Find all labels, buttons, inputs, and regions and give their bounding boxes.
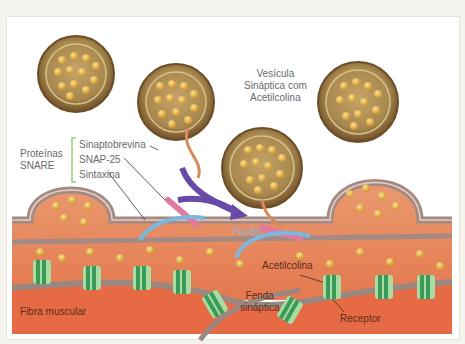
receptor-label: Receptor (340, 313, 381, 325)
vesicle-label-line-2: Sináptica com (244, 80, 307, 92)
vesicle-label-line-1: Vesícula (244, 68, 307, 80)
snare-item-synaptobrevin: Sinaptobrevina (79, 139, 146, 151)
synaptic-cleft-line-2: sináptica (240, 302, 279, 314)
muscle-fiber-label: Fibra muscular (20, 306, 86, 318)
diagram-canvas (0, 0, 465, 344)
vesicle-label: Vesícula Sináptica com Acetilcolina (244, 68, 307, 104)
fusion-label: Fusão (233, 226, 261, 238)
snare-bracket (72, 138, 76, 182)
vesicle-1 (38, 36, 114, 112)
vesicle-4 (318, 62, 398, 142)
snare-item-syntaxin: Sintaxina (79, 169, 120, 181)
snare-item-snap25: SNAP-25 (79, 154, 121, 166)
vesicle-2 (138, 64, 214, 140)
snare-group-line-1: Proteínas (20, 148, 63, 160)
synaptic-cleft-line-1: Fenda (240, 290, 279, 302)
snare-group-label: Proteínas SNARE (20, 148, 63, 172)
synaptic-cleft-label: Fenda sináptica (240, 290, 279, 314)
snare-group-line-2: SNARE (20, 160, 63, 172)
vesicle-3 (222, 128, 302, 208)
vesicle-label-line-3: Acetilcolina (244, 92, 307, 104)
acetylcholine-label: Acetilcolina (262, 260, 313, 272)
